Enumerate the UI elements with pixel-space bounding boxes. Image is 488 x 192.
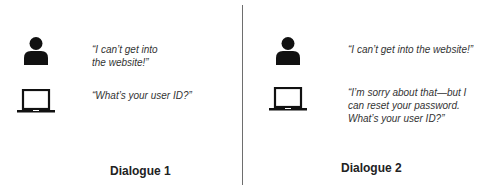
dialogue-2-caption: Dialogue 2 — [341, 161, 402, 175]
dialogue-1-user-quote: “I can’t get into the website!” — [92, 43, 172, 69]
dialogue-1-computer-quote: “What’s your user ID?” — [92, 89, 212, 102]
dialogue-1-caption: Dialogue 1 — [110, 164, 171, 178]
panel-divider — [242, 5, 243, 185]
dialogue-2-computer-quote: “I’m sorry about that—but I can reset yo… — [348, 86, 478, 125]
laptop-icon — [17, 89, 55, 114]
dialogue-2-user-quote: “I can’t get into the website!” — [348, 43, 488, 56]
person-icon — [274, 36, 302, 65]
laptop-icon — [269, 87, 307, 112]
person-icon — [22, 36, 50, 65]
